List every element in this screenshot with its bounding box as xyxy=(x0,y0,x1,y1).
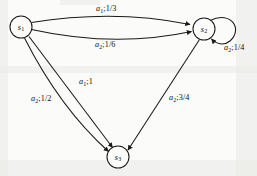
edge-probability-s2-s3: 3/4 xyxy=(179,93,190,102)
edge-label-s1-s3-inner: a1;1 xyxy=(79,78,93,87)
diagram-canvas: s1 s2 s3 a1;1/3 a2;1/6 a2;1/4 a1;1 a2;1/… xyxy=(0,0,257,176)
edge-probability-s1-s3-inner: 1 xyxy=(89,77,93,86)
edge-label-s2-s3: a2;3/4 xyxy=(169,94,189,103)
node-label-s3-subscript: 3 xyxy=(118,156,121,162)
edge-probability-s2-self-loop: 1/4 xyxy=(234,43,245,52)
state-diagram xyxy=(0,0,257,176)
edge-probability-s1-s2-lower: 1/6 xyxy=(105,40,116,49)
edge-probability-s1-s3-outer: 1/2 xyxy=(41,94,52,103)
edge-probability-s1-s2-upper: 1/3 xyxy=(106,4,117,13)
edge-label-s1-s3-outer: a2;1/2 xyxy=(31,95,51,104)
node-label-s2-subscript: 2 xyxy=(204,28,207,34)
edge-label-s1-s2-lower: a2;1/6 xyxy=(95,41,115,50)
node-label-s1: s1 xyxy=(18,24,24,33)
node-label-s3: s3 xyxy=(115,154,121,163)
edge-s1-s2-upper xyxy=(32,16,191,24)
edge-s1-s2-lower xyxy=(32,30,192,40)
edge-s1-s3-inner xyxy=(29,37,113,148)
edge-label-s1-s2-upper: a1;1/3 xyxy=(96,5,116,14)
node-label-s2: s2 xyxy=(201,26,207,35)
node-label-s1-subscript: 1 xyxy=(21,26,24,32)
edge-label-s2-self-loop: a2;1/4 xyxy=(224,44,244,53)
